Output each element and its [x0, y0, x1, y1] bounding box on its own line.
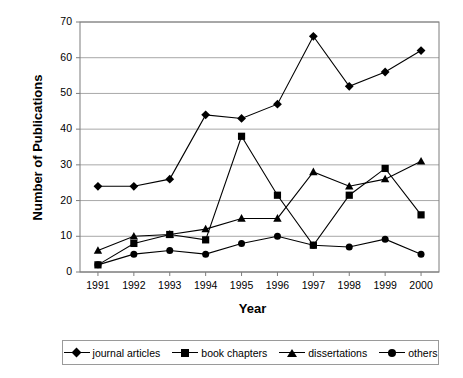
y-axis-tick-label: 70	[46, 16, 72, 26]
data-point-square	[382, 165, 389, 172]
x-axis-tick-label: 1993	[150, 280, 190, 291]
x-axis-tick-label: 1995	[222, 280, 262, 291]
circle-marker-icon	[379, 347, 405, 359]
x-axis-tick-label: 1994	[186, 280, 226, 291]
diamond-marker-icon	[64, 347, 90, 359]
data-point-square	[346, 192, 353, 199]
y-axis-tick-label: 40	[46, 123, 72, 133]
legend-item-label: others	[408, 347, 437, 359]
data-point-diamond	[309, 32, 318, 41]
data-point-diamond	[417, 46, 426, 55]
y-axis-tick-label: 60	[46, 52, 72, 62]
square-marker-icon	[172, 347, 198, 359]
data-point-diamond	[345, 82, 354, 91]
data-point-square	[274, 192, 281, 199]
series-line-dissertations	[98, 161, 421, 250]
data-point-square	[417, 211, 424, 218]
data-point-diamond	[201, 110, 210, 119]
data-point-diamond	[165, 175, 174, 184]
data-point-diamond	[94, 182, 103, 191]
data-point-triangle	[417, 157, 425, 165]
legend-item-journal-articles[interactable]: journal articles	[64, 347, 161, 359]
x-axis-title: Year	[60, 301, 445, 316]
x-axis-tick-label: 1999	[365, 280, 405, 291]
data-point-circle	[238, 240, 245, 247]
y-axis-tick-label: 20	[46, 195, 72, 205]
data-point-circle	[418, 251, 425, 258]
triangle-marker-icon	[279, 347, 305, 359]
x-axis-tick-label: 1991	[78, 280, 118, 291]
x-axis-tick-label: 1998	[329, 280, 369, 291]
y-axis-tick-label: 30	[46, 159, 72, 169]
legend-item-label: dissertations	[308, 347, 367, 359]
data-point-diamond	[237, 114, 246, 123]
data-point-diamond	[129, 182, 138, 191]
y-axis-title: Number of Publications	[30, 48, 45, 248]
data-point-circle	[130, 251, 137, 258]
legend-item-label: book chapters	[201, 347, 267, 359]
legend-item-others[interactable]: others	[379, 347, 437, 359]
y-axis-tick-label: 0	[46, 266, 72, 276]
data-point-triangle	[237, 214, 245, 222]
data-point-square	[202, 236, 209, 243]
y-axis-tick-label: 50	[46, 87, 72, 97]
legend-item-book-chapters[interactable]: book chapters	[172, 347, 267, 359]
y-axis-tick-label: 10	[46, 230, 72, 240]
x-axis-tick-label: 1992	[114, 280, 154, 291]
legend-item-dissertations[interactable]: dissertations	[279, 347, 367, 359]
data-point-circle	[382, 236, 389, 243]
legend-item-label: journal articles	[93, 347, 161, 359]
data-point-circle	[310, 242, 317, 249]
data-point-circle	[166, 247, 173, 254]
x-axis-tick-label: 1996	[257, 280, 297, 291]
data-point-circle	[346, 244, 353, 251]
x-axis-tick-label: 2000	[401, 280, 441, 291]
data-point-circle	[94, 261, 101, 268]
data-point-diamond	[273, 100, 282, 109]
series-line-journal-articles	[98, 36, 421, 186]
x-axis-tick-label: 1997	[293, 280, 333, 291]
data-point-circle	[274, 233, 281, 240]
data-point-triangle	[381, 175, 389, 183]
data-point-diamond	[381, 68, 390, 77]
publications-line-chart: Number of Publications Year journal arti…	[0, 0, 463, 378]
data-point-square	[130, 240, 137, 247]
chart-legend: journal articlesbook chaptersdissertatio…	[62, 340, 439, 365]
data-point-circle	[202, 251, 209, 258]
data-point-square	[238, 133, 245, 140]
data-point-triangle	[309, 168, 317, 176]
